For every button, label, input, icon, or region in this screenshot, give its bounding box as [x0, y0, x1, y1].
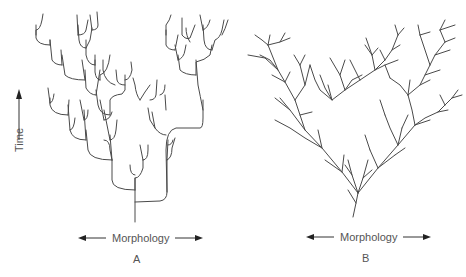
morphology-axis-a: Morphology: [78, 232, 203, 244]
morphology-label-b: Morphology: [340, 231, 397, 243]
morphology-label-a: Morphology: [112, 232, 169, 244]
panel-label-b: B: [362, 252, 369, 264]
arrow-right-icon: [403, 233, 431, 241]
arrow-right-icon: [175, 234, 203, 242]
arrow-left-icon: [306, 233, 334, 241]
panel-label-a: A: [133, 253, 140, 265]
morphology-axis-b: Morphology: [306, 231, 431, 243]
arrow-left-icon: [78, 234, 106, 242]
